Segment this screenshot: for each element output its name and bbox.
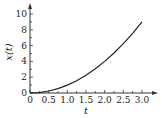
y-tick-label: 6	[21, 41, 27, 51]
x-ticks: 00.51.01.52.02.53.0	[27, 90, 149, 105]
x-tick-label: 2.5	[116, 95, 131, 105]
x-tick-label: 1.0	[60, 95, 75, 105]
y-tick-label: 4	[21, 56, 27, 66]
line-chart: 0246810 00.51.01.52.02.53.0 x(t) t	[0, 0, 162, 118]
y-tick-label: 8	[21, 25, 27, 35]
x-axis-label: t	[84, 105, 89, 116]
x-tick-label: 0	[27, 95, 33, 105]
y-axis-arrow-icon	[28, 3, 32, 9]
x-axis-arrow-icon	[152, 91, 158, 95]
x-tick-label: 1.5	[79, 95, 94, 105]
y-axis-label: x(t)	[3, 43, 14, 61]
data-series-line	[30, 22, 142, 93]
x-tick-label: 0.5	[42, 95, 57, 105]
x-tick-label: 3.0	[135, 95, 150, 105]
x-tick-label: 2.0	[98, 95, 113, 105]
y-tick-label: 10	[16, 9, 28, 19]
y-tick-label: 2	[21, 72, 27, 82]
